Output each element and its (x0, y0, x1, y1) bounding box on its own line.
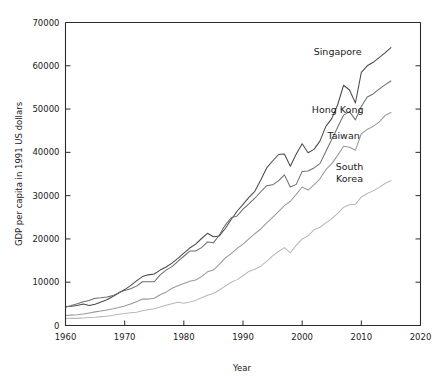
series-label-south-korea: Korea (336, 173, 363, 184)
y-tick-label: 60000 (32, 61, 59, 71)
x-tick-label: 2000 (291, 332, 313, 342)
y-axis-title: GDP per capita in 1991 US dollars (14, 101, 24, 246)
x-tick-label: 1980 (173, 332, 195, 342)
series-label-hong-kong: Hong Kong (312, 104, 364, 115)
x-tick-label: 1960 (55, 332, 77, 342)
y-tick-label: 70000 (32, 18, 59, 28)
y-tick-label: 20000 (32, 234, 59, 244)
chart-page: 0100002000030000400005000060000700001960… (0, 0, 447, 380)
series-label-taiwan: Taiwan (326, 130, 359, 141)
y-tick-label: 40000 (32, 147, 59, 157)
x-tick-label: 2010 (351, 332, 373, 342)
gdp-per-capita-line-chart: 0100002000030000400005000060000700001960… (0, 0, 447, 380)
x-tick-label: 1970 (114, 332, 136, 342)
y-tick-label: 50000 (32, 104, 59, 114)
y-tick-label: 0 (54, 321, 59, 331)
series-label-south-korea: South (336, 161, 364, 172)
y-tick-label: 30000 (32, 191, 59, 201)
series-label-singapore: Singapore (314, 46, 362, 57)
x-axis-title: Year (232, 363, 252, 373)
x-tick-label: 2020 (410, 332, 432, 342)
x-tick-label: 1990 (232, 332, 254, 342)
y-tick-label: 10000 (32, 277, 59, 287)
